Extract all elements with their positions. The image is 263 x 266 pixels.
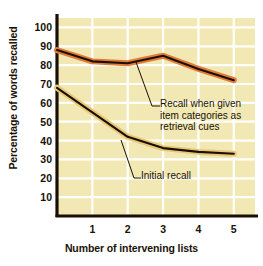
y-axis-label: Percentage of words recalled bbox=[7, 13, 19, 183]
y-tick-labels: 100908070605040302010 bbox=[22, 0, 52, 266]
y-tick-50: 50 bbox=[24, 117, 52, 127]
y-tick-10: 10 bbox=[24, 192, 52, 202]
x-tick-3: 3 bbox=[153, 223, 173, 235]
y-tick-20: 20 bbox=[24, 173, 52, 183]
annotation-initial-recall: Initial recall bbox=[141, 170, 241, 182]
x-tick-2: 2 bbox=[118, 223, 138, 235]
x-tick-5: 5 bbox=[224, 223, 244, 235]
y-tick-100: 100 bbox=[24, 22, 52, 32]
y-tick-90: 90 bbox=[24, 41, 52, 51]
y-tick-60: 60 bbox=[24, 98, 52, 108]
annotation-cued-recall: Recall when given item categories as ret… bbox=[160, 98, 263, 133]
y-tick-80: 80 bbox=[24, 60, 52, 70]
x-tick-1: 1 bbox=[82, 223, 102, 235]
y-tick-70: 70 bbox=[24, 79, 52, 89]
y-tick-40: 40 bbox=[24, 136, 52, 146]
x-tick-4: 4 bbox=[188, 223, 208, 235]
x-axis-label: Number of intervening lists bbox=[0, 242, 263, 254]
y-tick-30: 30 bbox=[24, 154, 52, 164]
